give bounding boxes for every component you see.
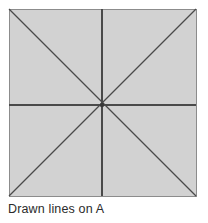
- lines-intersection-point: [100, 103, 104, 107]
- figure-caption: Drawn lines on A: [8, 201, 204, 218]
- figure-drawing-canvas: [0, 0, 208, 223]
- figure-drawn-lines-on-a: Drawn lines on A: [0, 0, 208, 223]
